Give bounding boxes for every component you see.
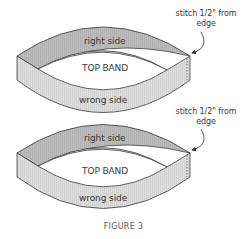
band-1-wrong-side-label: wrong side <box>79 95 127 106</box>
figure-3: right side TOP BAND wrong side stitch 1/… <box>0 0 247 239</box>
band-2-annotation-arrow <box>192 129 204 150</box>
band-1-right-side-label: right side <box>84 36 125 47</box>
band-1-stitch-note-line2: edge <box>166 19 246 29</box>
band-1-annotation-arrow <box>192 32 204 53</box>
figure-caption: FIGURE 3 <box>0 222 247 231</box>
band-1-stitch-note-line1: stitch 1/2" from <box>166 9 246 19</box>
band-2-stitch-note-line2: edge <box>166 117 246 127</box>
band-1-stitch-note: stitch 1/2" from edge <box>166 9 246 29</box>
band-1-center-label: TOP BAND <box>82 63 128 74</box>
band-2-center-label: TOP BAND <box>82 166 128 177</box>
band-2-right-side-label: right side <box>84 133 125 144</box>
band-2-stitch-note-line1: stitch 1/2" from <box>166 107 246 117</box>
band-2-wrong-side-label: wrong side <box>79 193 127 204</box>
band-2-stitch-note: stitch 1/2" from edge <box>166 107 246 127</box>
